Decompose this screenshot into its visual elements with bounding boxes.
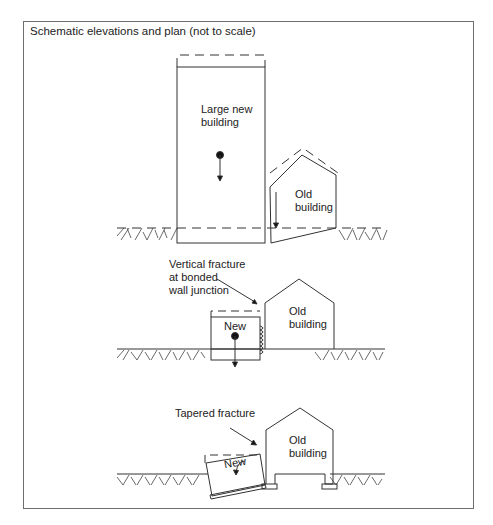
label-large-new-building-1: Large new <box>201 103 252 115</box>
ground-hatch-right <box>339 228 387 240</box>
new-building-original-outline <box>211 311 260 317</box>
panel-top <box>117 55 387 243</box>
old-building-bottom <box>266 408 333 484</box>
label-large-new-building-2: building <box>201 116 239 128</box>
rotation-arrow-head-icon <box>234 470 239 475</box>
label-old-building-middle-2: building <box>289 318 327 330</box>
footing-right <box>322 484 337 489</box>
label-old-building-bottom-2: building <box>289 447 327 459</box>
arrow-head-icon <box>233 362 238 367</box>
ground-hatch-left <box>117 350 205 360</box>
label-new-middle: New <box>224 320 246 332</box>
clipped-caption-strip <box>0 518 493 525</box>
ground-hatch-left <box>117 228 177 240</box>
annotation-leader-line <box>230 428 254 443</box>
label-vertical-fracture-1: Vertical fracture <box>169 258 245 270</box>
ground-hatch-right <box>315 350 383 360</box>
new-building-original-outline <box>177 55 265 67</box>
arrow-head-icon <box>218 176 223 181</box>
label-vertical-fracture-2: at bonded <box>169 271 218 283</box>
panel-bottom <box>117 408 385 499</box>
label-old-building-middle-1: Old <box>289 305 306 317</box>
old-arrow-head-icon <box>274 223 279 228</box>
label-old-building-bottom-1: Old <box>289 434 306 446</box>
label-tapered-fracture: Tapered fracture <box>175 407 255 419</box>
label-new-bottom: New <box>223 455 247 471</box>
label-vertical-fracture-3: wall junction <box>168 284 229 296</box>
old-building-original-roof <box>270 148 338 173</box>
panel-middle <box>117 279 385 367</box>
ground-hatch-left <box>117 475 199 485</box>
ground-hatch-right <box>330 475 382 485</box>
settlement-diagram: Large new building Old building Vertical… <box>0 0 493 525</box>
label-old-building-top-2: building <box>295 201 333 213</box>
label-old-building-top-1: Old <box>295 188 312 200</box>
annotation-arrow-head-icon <box>251 440 257 445</box>
